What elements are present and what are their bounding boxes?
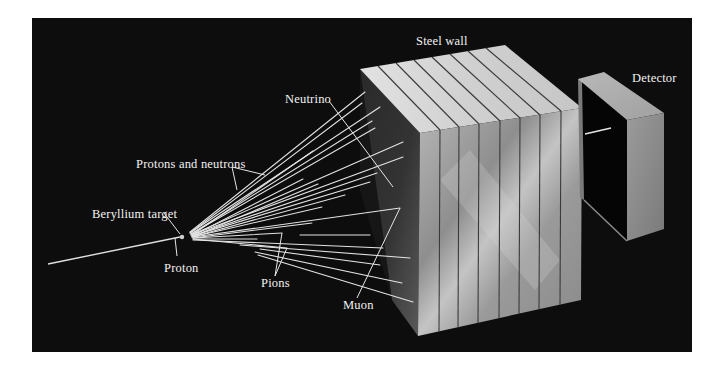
label-muon: Muon [343, 298, 374, 313]
beryllium-target [180, 235, 184, 239]
label-beryllium-target: Beryllium target [92, 207, 177, 222]
label-protons-and-neutrons: Protons and neutrons [136, 157, 246, 172]
label-detector: Detector [632, 71, 677, 86]
label-neutrino: Neutrino [285, 92, 331, 107]
diagram-svg [0, 0, 726, 370]
label-pions: Pions [261, 276, 290, 291]
label-steel-wall: Steel wall [416, 34, 468, 49]
label-proton: Proton [164, 261, 199, 276]
diagram-canvas: Steel wall Detector Neutrino Protons and… [0, 0, 726, 370]
